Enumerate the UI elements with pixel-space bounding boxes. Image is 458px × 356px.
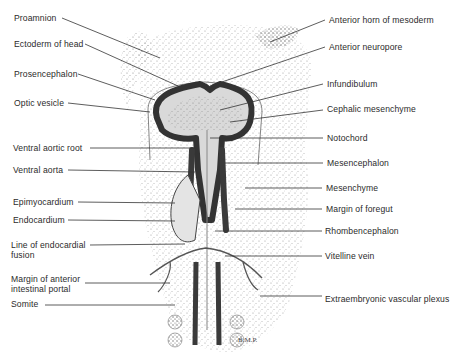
- label-mesencephalon: Mesencephalon: [327, 158, 389, 168]
- somite: [168, 333, 182, 347]
- label-cephalic-mesenchyme: Cephalic mesenchyme: [327, 104, 416, 114]
- label-mesenchyme: Mesenchyme: [326, 183, 378, 193]
- label-endocardium: Endocardium: [13, 215, 65, 225]
- label-notochord: Notochord: [327, 133, 368, 143]
- label-rhombencephalon: Rhombencephalon: [325, 226, 399, 236]
- embryo-diagram: ProamnionEctoderm of headProsencephalonO…: [0, 0, 458, 356]
- leader-line: [68, 103, 150, 112]
- label-line-of-endocardial-fusion: Line of endocardial fusion: [11, 240, 89, 260]
- label-prosencephalon: Prosencephalon: [14, 69, 78, 79]
- label-optic-vesicle: Optic vesicle: [14, 98, 64, 108]
- label-epimyocardium: Epimyocardium: [13, 197, 74, 207]
- label-vitelline-vein: Vitelline vein: [325, 251, 375, 261]
- somite: [168, 315, 182, 329]
- label-proamnion: Proamnion: [14, 13, 56, 23]
- label-anterior-horn-of-mesoderm: Anterior horn of mesoderm: [329, 15, 434, 25]
- label-ventral-aorta: Ventral aorta: [13, 165, 63, 175]
- label-somite: Somite: [11, 299, 38, 309]
- label-margin-of-foregut: Margin of foregut: [326, 204, 393, 214]
- artist-signature: B.M.P.: [238, 336, 257, 344]
- label-infundibulum: Infundibulum: [327, 79, 377, 89]
- label-extraembryonic-vascular-plexus: Extraembryonic vascular plexus: [325, 294, 449, 304]
- label-ventral-aortic-root: Ventral aortic root: [13, 143, 82, 153]
- somite: [230, 315, 244, 329]
- label-anterior-neuropore: Anterior neuropore: [329, 42, 402, 52]
- label-ectoderm-of-head: Ectoderm of head: [14, 39, 83, 49]
- label-margin-of-anterior-intestinal-portal: Margin of anterior intestinal portal: [11, 274, 89, 294]
